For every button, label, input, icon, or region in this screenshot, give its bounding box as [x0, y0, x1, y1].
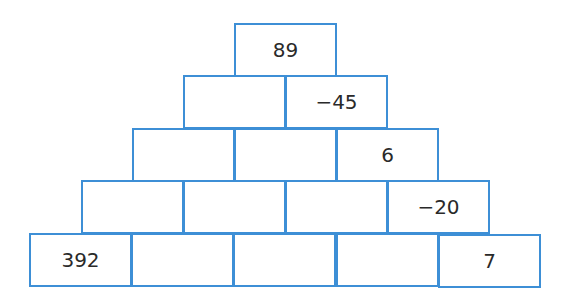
- pyramid-cell-r5-c5: 7: [438, 234, 541, 288]
- pyramid-cell-r2-c2: −45: [285, 75, 388, 129]
- pyramid-cell-r5-c4: [336, 233, 439, 287]
- pyramid-cell-r4-c3: [285, 180, 388, 234]
- pyramid-cell-r1-c1: 89: [234, 23, 337, 77]
- pyramid-cell-r5-c1: 392: [29, 233, 132, 287]
- pyramid-cell-r3-c1: [132, 128, 235, 182]
- pyramid-cell-r2-c1: [183, 75, 286, 129]
- pyramid-cell-r3-c2: [234, 128, 337, 182]
- pyramid-cell-r3-c3: 6: [336, 128, 439, 182]
- pyramid-cell-r4-c4: −20: [387, 180, 490, 234]
- pyramid-cell-r5-c3: [233, 233, 336, 287]
- pyramid-cell-r4-c2: [183, 180, 286, 234]
- pyramid-cell-r4-c1: [81, 180, 184, 234]
- pyramid-cell-r5-c2: [131, 233, 234, 287]
- number-pyramid: 89 −45 6 −20 392 7: [0, 0, 573, 306]
